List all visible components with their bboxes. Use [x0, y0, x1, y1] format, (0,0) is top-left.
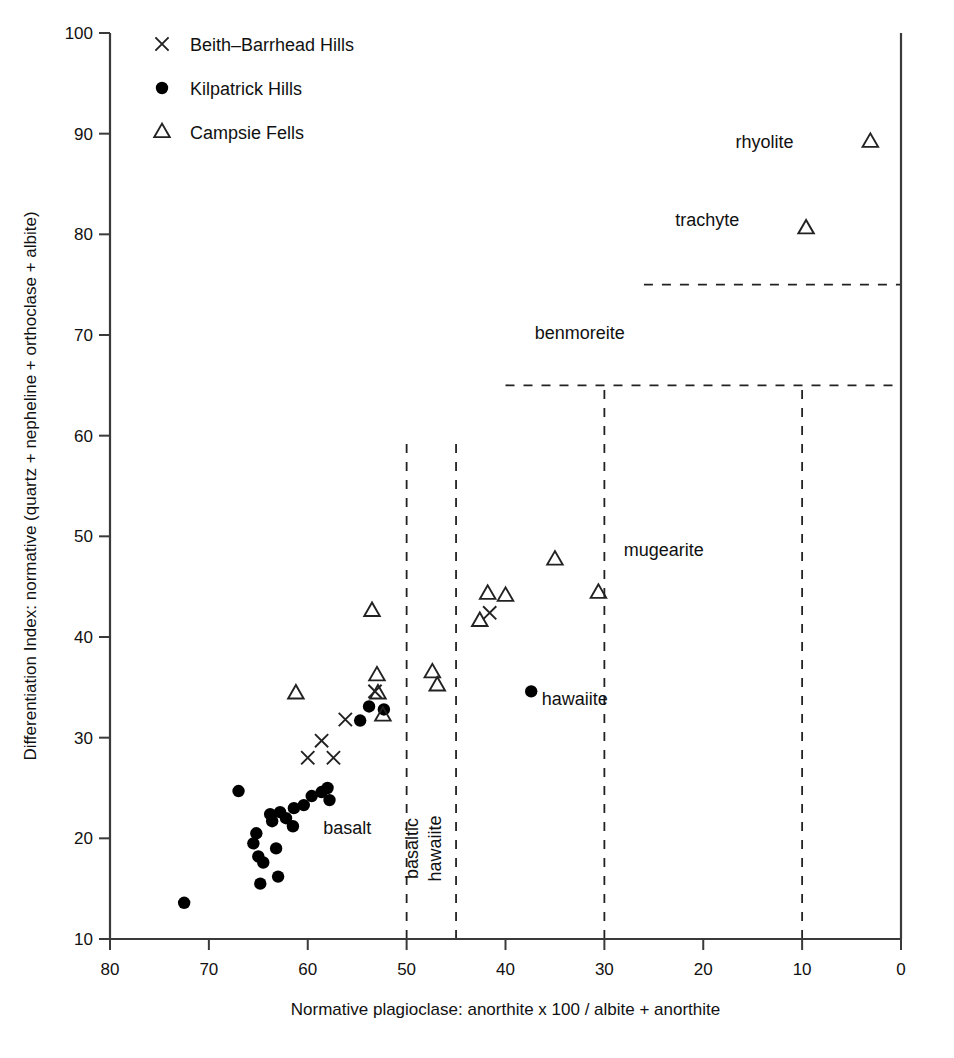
legend-marker-circle	[156, 82, 168, 94]
data-point-beith-barrhead-hills	[315, 734, 328, 747]
legend-label-beith-barrhead-hills: Beith–Barrhead Hills	[190, 35, 354, 55]
y-axis-title: Differentiation Index: normative (quartz…	[21, 211, 40, 760]
y-axis-tick-label: 10	[74, 930, 93, 949]
data-point-campsie-fells	[364, 602, 380, 616]
y-axis-tick-label: 30	[74, 729, 93, 748]
legend-marker-cross	[155, 37, 168, 50]
y-axis-tick-label: 70	[74, 326, 93, 345]
data-point-campsie-fells	[472, 613, 488, 627]
field-label-hawaiite: hawaiite	[425, 815, 445, 881]
data-point-kilpatrick-hills	[232, 785, 244, 797]
data-point-campsie-fells	[430, 677, 446, 691]
x-axis-tick-label: 50	[397, 960, 416, 979]
field-label-rhyolite: rhyolite	[736, 132, 794, 152]
data-point-kilpatrick-hills	[257, 856, 269, 868]
data-point-beith-barrhead-hills	[339, 713, 352, 726]
data-point-kilpatrick-hills	[354, 714, 366, 726]
field-label-basalt: basalt	[323, 818, 371, 838]
data-point-campsie-fells	[863, 133, 879, 147]
legend-label-campsie-fells: Campsie Fells	[190, 123, 304, 143]
data-point-campsie-fells	[480, 585, 496, 599]
data-point-kilpatrick-hills	[287, 820, 299, 832]
data-point-kilpatrick-hills	[254, 877, 266, 889]
data-point-kilpatrick-hills	[250, 827, 262, 839]
data-point-kilpatrick-hills	[363, 700, 375, 712]
chart-canvas: 80706050403020100102030405060708090100No…	[0, 0, 954, 1058]
data-point-campsie-fells	[498, 587, 514, 601]
data-point-beith-barrhead-hills	[327, 751, 340, 764]
x-axis-title: Normative plagioclase: anorthite x 100 /…	[291, 1000, 721, 1019]
y-axis-tick-label: 50	[74, 527, 93, 546]
field-label-basaltic: basaltic	[402, 818, 422, 879]
data-point-kilpatrick-hills	[525, 685, 537, 697]
data-point-campsie-fells	[798, 220, 814, 234]
data-point-kilpatrick-hills	[272, 870, 284, 882]
field-label-hawaiite: hawaiite	[542, 689, 608, 709]
data-point-kilpatrick-hills	[323, 794, 335, 806]
data-point-campsie-fells	[547, 551, 563, 565]
field-label-benmoreite: benmoreite	[535, 323, 625, 343]
x-axis-tick-label: 20	[694, 960, 713, 979]
y-axis-tick-label: 20	[74, 829, 93, 848]
data-point-campsie-fells	[425, 664, 441, 678]
x-axis-tick-label: 10	[793, 960, 812, 979]
differentiation-index-scatter-chart: 80706050403020100102030405060708090100No…	[0, 0, 954, 1058]
data-point-beith-barrhead-hills	[483, 606, 496, 619]
field-label-trachyte: trachyte	[675, 210, 739, 230]
x-axis-tick-label: 80	[101, 960, 120, 979]
y-axis-tick-label: 40	[74, 628, 93, 647]
x-axis-tick-label: 70	[199, 960, 218, 979]
data-point-kilpatrick-hills	[270, 842, 282, 854]
x-axis-tick-label: 0	[896, 960, 905, 979]
field-label-mugearite: mugearite	[624, 540, 704, 560]
data-point-beith-barrhead-hills	[301, 751, 314, 764]
x-axis-tick-label: 60	[298, 960, 317, 979]
data-point-campsie-fells	[288, 685, 304, 699]
legend-label-kilpatrick-hills: Kilpatrick Hills	[190, 79, 302, 99]
x-axis-tick-label: 30	[595, 960, 614, 979]
legend-marker-triangle	[154, 124, 170, 138]
y-axis-tick-label: 100	[65, 24, 93, 43]
data-point-kilpatrick-hills	[321, 782, 333, 794]
data-point-campsie-fells	[370, 685, 386, 699]
data-point-campsie-fells	[369, 667, 385, 681]
y-axis-tick-label: 80	[74, 225, 93, 244]
y-axis-tick-label: 90	[74, 125, 93, 144]
data-point-kilpatrick-hills	[178, 897, 190, 909]
x-axis-tick-label: 40	[496, 960, 515, 979]
y-axis-tick-label: 60	[74, 427, 93, 446]
